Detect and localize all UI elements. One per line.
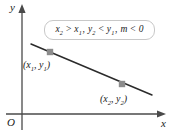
slope-diagram-figure: y x O x2 > x1, y2 < y1, m < 0 (x1, y1) (…: [0, 0, 173, 136]
origin-label: O: [7, 117, 15, 128]
formula-text: x2 > x1, y2 < y1, m < 0: [55, 24, 143, 36]
point-1-marker: [47, 49, 53, 55]
x-axis: [6, 110, 166, 117]
y-axis-arrowhead: [18, 4, 25, 13]
formula-callout-box: x2 > x1, y2 < y1, m < 0: [44, 20, 155, 40]
x-axis-label: x: [161, 118, 166, 129]
point-1-label: (x1, y1): [23, 60, 50, 73]
y-axis-label: y: [10, 2, 15, 13]
point-2-marker: [119, 81, 125, 87]
point-2-label: (x2, y2): [100, 94, 127, 107]
